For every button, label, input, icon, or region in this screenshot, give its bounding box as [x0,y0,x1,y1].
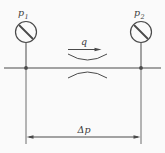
gauge-left-label-subscript: 1 [25,13,29,21]
pressure-gauge-right [131,22,152,70]
constriction-lower-arc [68,72,107,78]
flow-arrowhead-icon [95,48,102,52]
pressure-gauge-left [16,22,37,70]
gauge-left-needle-icon [20,26,33,39]
orifice-constriction [68,54,107,78]
gauge-right-label-subscript: 2 [140,13,145,21]
gauge-left-tap-junction [24,66,28,70]
gauge-right-needle-icon [135,26,148,39]
flow-rate-label: q [81,36,87,47]
pressure-measurement-diagram: p 1 p 2 q Δp [0,0,165,153]
constriction-upper-arc [68,54,107,60]
dimension-arrowhead-left-icon [27,135,34,138]
gauge-right-tap-junction [139,66,143,70]
delta-p-label: Δp [77,124,91,135]
diagram-svg: p 1 p 2 q Δp [0,0,165,153]
flow-arrow [68,48,102,52]
gauge-right-label: p [134,7,140,18]
dimension-arrowhead-right-icon [134,135,141,138]
gauge-left-label: p [18,7,24,18]
